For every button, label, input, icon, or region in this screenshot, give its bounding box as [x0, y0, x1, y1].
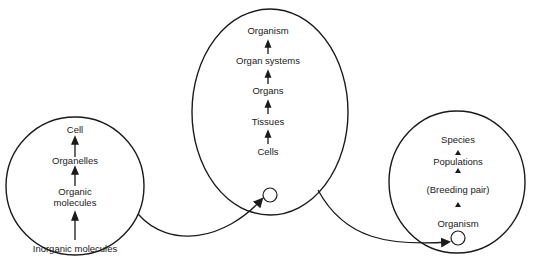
- cell-unit-circle: [263, 188, 277, 202]
- label-organism: Organism: [247, 25, 288, 36]
- label-breeding-pair: (Breeding pair): [427, 184, 490, 195]
- label-organelles: Organelles: [52, 155, 98, 166]
- label-organs: Organs: [252, 85, 283, 96]
- label-cell: Cell: [67, 124, 83, 135]
- label-species: Species: [441, 134, 475, 145]
- label-organism-unit: Organism: [437, 218, 478, 229]
- levels-of-organisation-diagram: Cell Organelles Organic molecules Inorga…: [0, 0, 534, 262]
- organism-unit-circle: [451, 231, 465, 245]
- label-cells: Cells: [257, 146, 278, 157]
- label-populations: Populations: [433, 156, 483, 167]
- label-tissues: Tissues: [252, 116, 284, 127]
- label-organ-systems: Organ systems: [236, 55, 300, 66]
- label-inorganic-molecules: Inorganic molecules: [33, 243, 118, 254]
- label-organic-molecules-line1: Organic: [58, 186, 91, 197]
- organism-level-ellipse: [192, 9, 348, 215]
- connector-cell-to-cells: [138, 199, 262, 236]
- connector-organism-to-population: [318, 190, 449, 243]
- label-organic-molecules-line2: molecules: [54, 197, 97, 208]
